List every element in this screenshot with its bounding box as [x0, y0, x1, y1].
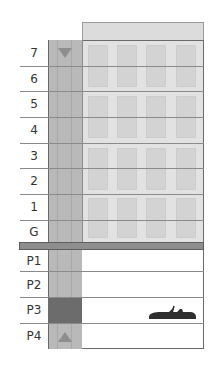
floor-divider	[20, 297, 204, 298]
floor-label-2[interactable]: 2	[20, 175, 48, 187]
building-roof	[82, 22, 204, 41]
floor-label-p2[interactable]: P2	[20, 279, 48, 291]
shaft-right-edge	[82, 40, 83, 243]
floor-divider	[20, 220, 204, 221]
elevator-car[interactable]	[48, 297, 82, 323]
floor-divider	[20, 143, 204, 144]
car-icon	[147, 304, 197, 322]
floor-label-p3[interactable]: P3	[20, 304, 48, 316]
floor-divider	[20, 323, 204, 324]
floor-divider	[20, 168, 204, 169]
floor-label-7[interactable]: 7	[20, 47, 48, 59]
floor-label-4[interactable]: 4	[20, 124, 48, 136]
elevator-up-arrow-icon[interactable]	[58, 332, 72, 342]
floor-label-g[interactable]: G	[20, 226, 48, 238]
floor-label-p4[interactable]: P4	[20, 330, 48, 342]
floor-divider	[20, 194, 204, 195]
floor-divider	[20, 117, 204, 118]
floor-label-p1[interactable]: P1	[20, 255, 48, 267]
floor-divider	[20, 91, 204, 92]
floor-divider	[20, 66, 204, 67]
floor-label-5[interactable]: 5	[20, 98, 48, 110]
floor-label-6[interactable]: 6	[20, 73, 48, 85]
elevator-down-arrow-icon[interactable]	[58, 48, 72, 58]
floor-divider	[20, 271, 204, 272]
floor-label-1[interactable]: 1	[20, 201, 48, 213]
ground-level-bar	[19, 242, 204, 250]
floor-label-3[interactable]: 3	[20, 150, 48, 162]
